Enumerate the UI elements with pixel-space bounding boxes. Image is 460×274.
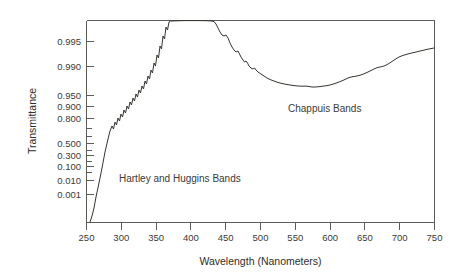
y-tick-label: 0.950 [57, 90, 81, 101]
x-tick-label: 450 [218, 232, 234, 243]
x-tick-label: 300 [113, 232, 129, 243]
annotation-hartley-huggins: Hartley and Huggins Bands [119, 173, 241, 184]
x-tick-label: 700 [392, 232, 408, 243]
x-tick-label: 350 [148, 232, 164, 243]
x-axis-title: Wavelength (Nanometers) [199, 255, 321, 267]
y-tick-label: 0.300 [57, 150, 81, 161]
x-tick-label: 250 [79, 232, 95, 243]
x-tick-label: 750 [427, 232, 443, 243]
x-tick-label: 650 [357, 232, 373, 243]
x-tick-label: 600 [322, 232, 338, 243]
y-tick-label: 0.001 [57, 189, 81, 200]
y-tick-label: 0.010 [57, 175, 81, 186]
y-axis-title: Transmittance [26, 88, 38, 154]
y-axis-tick-labels: 0.995 0.990 0.950 0.900 0.800 0.500 0.30… [57, 36, 81, 200]
ozone-transmittance-chart: 0.995 0.990 0.950 0.900 0.800 0.500 0.30… [0, 0, 460, 274]
annotation-chappuis: Chappuis Bands [288, 103, 361, 114]
chart-figure: 0.995 0.990 0.950 0.900 0.800 0.500 0.30… [0, 0, 460, 274]
y-tick-label: 0.995 [57, 36, 81, 47]
x-tick-label: 400 [183, 232, 199, 243]
y-tick-label: 0.100 [57, 161, 81, 172]
x-tick-label: 550 [287, 232, 303, 243]
y-tick-label: 0.900 [57, 101, 81, 112]
y-tick-label: 0.990 [57, 61, 81, 72]
y-tick-label: 0.500 [57, 138, 81, 149]
x-tick-label: 500 [253, 232, 269, 243]
y-tick-label: 0.800 [57, 113, 81, 124]
